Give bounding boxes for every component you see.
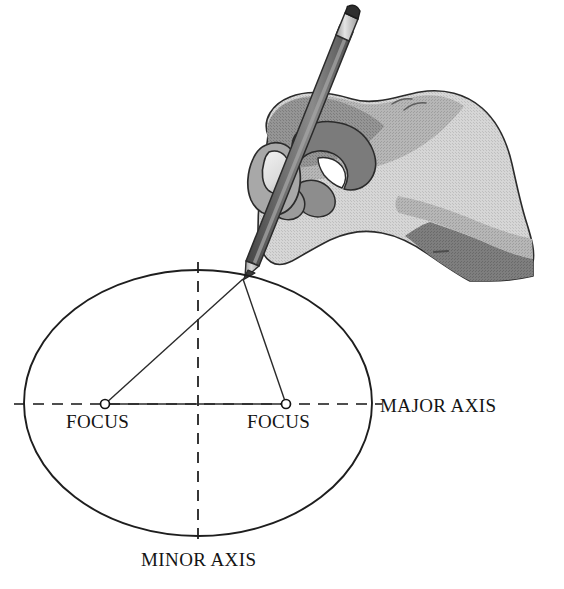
focus-point-right-icon	[282, 400, 291, 409]
string-left-segment	[105, 279, 243, 404]
major-axis-label: MAJOR AXIS	[380, 395, 496, 416]
diagram-canvas: FOCUS FOCUS MAJOR AXIS MINOR AXIS	[0, 0, 564, 589]
focus-point-left-icon	[101, 400, 110, 409]
minor-axis-label: MINOR AXIS	[141, 549, 256, 570]
diagram-labels: FOCUS FOCUS MAJOR AXIS MINOR AXIS	[66, 395, 496, 570]
string-right-segment	[243, 279, 286, 404]
ellipse-construction-figure: FOCUS FOCUS MAJOR AXIS MINOR AXIS	[0, 0, 564, 589]
focus-right-label: FOCUS	[247, 411, 310, 432]
focus-left-label: FOCUS	[66, 411, 129, 432]
ellipse-geometry-group	[14, 262, 382, 546]
wrist-mark	[434, 251, 448, 252]
